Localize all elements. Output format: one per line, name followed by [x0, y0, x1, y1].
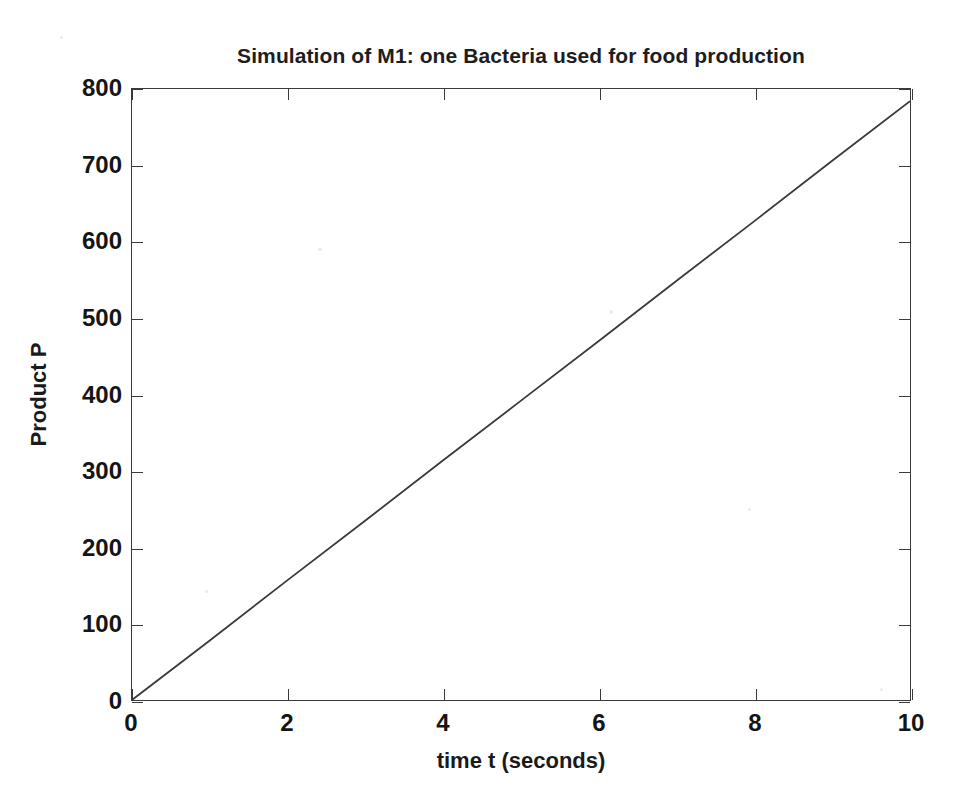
x-tick-mark [912, 89, 913, 100]
y-tick-mark [899, 702, 910, 703]
x-tick-label: 8 [720, 709, 790, 737]
scan-speckle [880, 688, 883, 691]
x-tick-mark [444, 689, 445, 700]
chart-title: Simulation of M1: one Bacteria used for … [131, 44, 911, 68]
y-tick-mark [132, 89, 143, 90]
x-tick-mark [288, 89, 289, 100]
y-axis-label: Product P [26, 88, 52, 701]
scan-speckle [318, 248, 322, 251]
x-tick-mark [132, 689, 133, 700]
x-tick-mark [444, 89, 445, 100]
y-tick-mark [132, 242, 143, 243]
y-tick-mark [899, 549, 910, 550]
y-tick-mark [899, 319, 910, 320]
y-tick-mark [899, 396, 910, 397]
y-tick-mark [132, 549, 143, 550]
plot-box [131, 88, 911, 701]
y-tick-mark [132, 472, 143, 473]
scan-speckle [60, 36, 63, 39]
y-tick-mark [132, 166, 143, 167]
figure-canvas: Simulation of M1: one Bacteria used for … [0, 0, 971, 810]
x-tick-mark [600, 89, 601, 100]
x-tick-mark [132, 89, 133, 100]
y-tick-mark [899, 242, 910, 243]
y-tick-mark [899, 89, 910, 90]
y-tick-mark [132, 396, 143, 397]
scan-speckle [610, 310, 613, 314]
y-tick-mark [132, 625, 143, 626]
x-axis-tick-labels: 0246810 [131, 709, 911, 743]
y-tick-mark [899, 625, 910, 626]
x-tick-label: 4 [408, 709, 478, 737]
x-tick-mark [912, 689, 913, 700]
series-line-product-p [132, 101, 910, 700]
y-tick-mark [899, 472, 910, 473]
scan-speckle [748, 508, 751, 511]
x-tick-label: 2 [252, 709, 322, 737]
x-tick-mark [600, 689, 601, 700]
y-tick-mark [132, 702, 143, 703]
scan-speckle [205, 590, 208, 593]
plot-area [132, 89, 910, 700]
x-tick-label: 0 [96, 709, 166, 737]
x-axis-label: time t (seconds) [131, 748, 911, 774]
data-line-svg [132, 89, 910, 700]
x-tick-label: 6 [564, 709, 634, 737]
x-tick-mark [756, 689, 757, 700]
y-tick-mark [899, 166, 910, 167]
x-tick-mark [756, 89, 757, 100]
x-tick-label: 10 [876, 709, 946, 737]
y-tick-mark [132, 319, 143, 320]
x-tick-mark [288, 689, 289, 700]
